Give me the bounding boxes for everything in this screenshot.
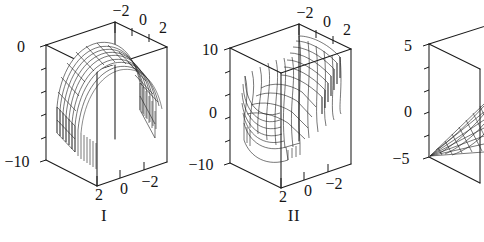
plot-panel-II: 10 0 −10 −2 0 2 2 0 −2 II (188, 0, 384, 242)
panel-III-ztick-neg5: −5 (392, 150, 409, 167)
panel-II-ztick-0: 0 (209, 104, 217, 121)
panel-III-svg: 5 0 −5 (382, 0, 484, 242)
panel-II-ztick-neg10: −10 (188, 156, 213, 173)
panel-III-ztick-0: 0 (404, 103, 412, 120)
panel-II-toptick-neg2: −2 (296, 4, 313, 21)
panel-I-bottomtick-2: 2 (95, 186, 103, 203)
panel-III-z-ticks (423, 44, 429, 159)
panel-I-toptick-2: 2 (159, 19, 167, 36)
panel-III-axis-box (429, 22, 484, 183)
plot-panel-I: 0 −10 −2 0 2 2 0 −2 I (0, 0, 196, 242)
panel-III-surface-mesh (430, 104, 484, 156)
panel-I-ztick-neg10: −10 (4, 153, 29, 170)
panel-I-ztick-0: 0 (17, 38, 25, 55)
panel-I-bottomtick-0: 0 (120, 180, 128, 197)
panel-I-surface-mesh (57, 42, 162, 169)
surface-plot-figure: 0 −10 −2 0 2 2 0 −2 I (0, 0, 484, 242)
panel-I-bottomtick-neg2: −2 (141, 173, 158, 190)
panel-I-z-ticks (40, 45, 46, 162)
panel-caption-II: II (196, 206, 392, 226)
panel-I-toptick-0: 0 (139, 11, 147, 28)
panel-II-bottomtick-neg2: −2 (325, 175, 342, 192)
panel-II-bottomtick-2: 2 (279, 188, 287, 205)
plot-panel-III: 5 0 −5 (382, 0, 484, 242)
panel-II-ztick-10: 10 (202, 41, 218, 58)
panel-II-toptick-0: 0 (323, 13, 331, 30)
panel-II-toptick-2: 2 (343, 21, 351, 38)
panel-II-surface-mesh (238, 36, 341, 162)
panel-caption-I: I (6, 206, 202, 226)
panel-II-z-ticks (224, 48, 230, 165)
panel-II-bottomtick-0: 0 (304, 182, 312, 199)
panel-III-ztick-5: 5 (404, 37, 412, 54)
panel-I-toptick-neg2: −2 (112, 2, 129, 19)
